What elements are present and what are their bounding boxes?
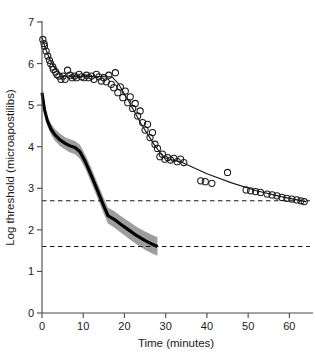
fitted-line-group xyxy=(42,38,306,202)
y-axis-tick-label: 4 xyxy=(28,141,34,153)
y-axis-tick-label: 7 xyxy=(28,16,34,28)
data-point-marker xyxy=(209,180,215,186)
x-axis-tick-label: 20 xyxy=(118,320,130,332)
x-axis-tick-label: 0 xyxy=(39,320,45,332)
data-point-marker xyxy=(127,94,133,100)
x-axis-tick-label: 60 xyxy=(283,320,295,332)
x-axis-tick-label: 10 xyxy=(77,320,89,332)
model-curve-group xyxy=(42,93,157,247)
y-axis-tick-label: 2 xyxy=(28,224,34,236)
y-axis-tick-label: 6 xyxy=(28,58,34,70)
model-curve xyxy=(42,93,157,247)
y-axis-tick-label: 3 xyxy=(28,182,34,194)
y-axis-tick-label: 5 xyxy=(28,99,34,111)
data-point-marker xyxy=(149,129,155,135)
x-axis-title: Time (minutes) xyxy=(138,337,214,349)
x-axis-tick-label: 30 xyxy=(160,320,172,332)
data-point-marker xyxy=(202,179,208,185)
data-point-marker xyxy=(112,70,118,76)
fitted-curve xyxy=(42,38,306,202)
data-point-marker xyxy=(106,72,112,78)
x-axis-tick-label: 40 xyxy=(201,320,213,332)
data-point-marker xyxy=(120,95,126,101)
threshold-vs-time-plot: 012345670102030405060Time (minutes)Log t… xyxy=(0,0,315,364)
data-point-marker xyxy=(132,100,138,106)
data-point-marker xyxy=(224,169,230,175)
reference-line-group xyxy=(42,201,310,247)
y-axis-tick-label: 0 xyxy=(28,307,34,319)
chart-figure: 012345670102030405060Time (minutes)Log t… xyxy=(0,0,315,364)
y-axis-tick-label: 1 xyxy=(28,265,34,277)
x-axis-tick-label: 50 xyxy=(242,320,254,332)
axis-label-group: 012345670102030405060Time (minutes)Log t… xyxy=(4,16,296,349)
data-point-group xyxy=(40,36,308,204)
y-axis-title: Log threshold (microapostilibs) xyxy=(4,89,16,246)
data-point-marker xyxy=(137,108,143,114)
axes-group xyxy=(37,21,313,318)
data-point-marker xyxy=(115,90,121,96)
